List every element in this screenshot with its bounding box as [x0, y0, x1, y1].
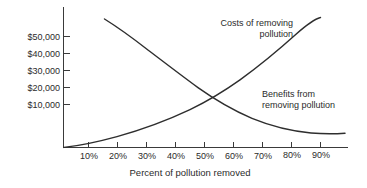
x-tick-label-20: 20%	[109, 151, 127, 161]
x-axis-ticks	[89, 142, 321, 148]
costs-label-line-1: Costs of removing	[220, 18, 293, 28]
x-tick-label-40: 40%	[167, 151, 185, 161]
x-tick-label-70: 70%	[254, 151, 272, 161]
x-tick-label-80: 80%	[283, 150, 301, 160]
y-tick-label-10000: $10,000	[27, 100, 60, 110]
x-axis-title: Percent of pollution removed	[130, 167, 251, 178]
benefits-series-label: Benefits from removing pollution	[262, 89, 335, 110]
benefits-label-line-2: removing pollution	[262, 100, 335, 110]
x-tick-label-90: 90%	[312, 150, 330, 160]
benefits-label-line-1: Benefits from	[262, 89, 315, 99]
pollution-cost-benefit-chart: $50,000 $40,000 $30,000 $20,000 $10,000 …	[0, 0, 367, 188]
x-tick-label-10: 10%	[80, 151, 98, 161]
costs-label-line-2: pollution	[259, 29, 293, 39]
costs-series-label: Costs of removing pollution	[220, 18, 293, 39]
y-axis-tick-labels: $50,000 $40,000 $30,000 $20,000 $10,000	[27, 32, 60, 110]
x-axis-tick-labels: 10% 20% 30% 40% 50% 60% 70% 80% 90%	[80, 150, 330, 161]
axes-group	[64, 7, 349, 148]
x-tick-label-30: 30%	[138, 151, 156, 161]
y-tick-label-50000: $50,000	[27, 32, 60, 42]
series-curves	[64, 18, 345, 148]
x-tick-label-60: 60%	[225, 151, 243, 161]
y-axis-ticks	[64, 37, 70, 105]
benefits-curve	[105, 19, 346, 134]
y-tick-label-30000: $30,000	[27, 66, 60, 76]
x-tick-label-50: 50%	[196, 151, 214, 161]
y-tick-label-20000: $20,000	[27, 83, 60, 93]
chart-canvas: $50,000 $40,000 $30,000 $20,000 $10,000 …	[0, 0, 367, 188]
y-tick-label-40000: $40,000	[27, 49, 60, 59]
